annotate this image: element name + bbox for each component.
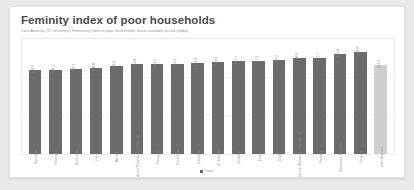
bar-value-label: 108.0	[92, 63, 96, 71]
bar[interactable]: 125.8	[334, 54, 347, 154]
bar-column[interactable]: 110.4	[106, 43, 126, 154]
bar-column[interactable]: 113.5	[167, 43, 187, 154]
chart-legend: Index	[10, 169, 404, 173]
x-axis-tick-label: Dominican Republic	[339, 142, 343, 172]
x-axis-tick-label: Brazil	[258, 153, 262, 162]
x-axis-tick: Guatemala	[65, 156, 85, 178]
bar-value-label: 107.3	[72, 64, 76, 72]
x-axis-tick-label: Costa Rica	[176, 149, 180, 166]
bar[interactable]: 113.2	[151, 64, 164, 154]
bar[interactable]: 119.2	[273, 60, 286, 155]
bar[interactable]: 108.0	[90, 68, 103, 154]
x-axis-tick: Honduras	[24, 156, 44, 178]
x-axis-tick: Uruguay	[349, 156, 369, 178]
x-axis-tick-label: Ecuador	[237, 151, 241, 164]
x-axis-tick: Ecuador	[227, 156, 247, 178]
x-axis-tick: Panama	[309, 156, 329, 178]
bar-value-label: 113.5	[173, 59, 177, 67]
page-title: Feminity index of poor households	[21, 14, 215, 26]
bar[interactable]: 128.4	[354, 52, 367, 154]
bar-column[interactable]: 121.7	[310, 43, 330, 154]
x-axis-tick: Colombia	[187, 156, 207, 178]
bar-column[interactable]: 108.0	[86, 43, 106, 154]
bar[interactable]: 121.7	[313, 58, 326, 154]
bar-column[interactable]: 116.4	[208, 43, 228, 154]
x-axis-tick-label: Paraguay	[156, 150, 160, 164]
bar[interactable]: 116.4	[212, 62, 225, 154]
x-axis-tick-label: Chile	[278, 153, 282, 161]
x-axis-tick: Venezuela (Bolivarian Republic of)	[288, 156, 308, 178]
bar-column[interactable]: 119.2	[269, 43, 289, 154]
bar-column[interactable]: 105.6	[25, 43, 45, 154]
chart-subtitle: Latin America (17 countries). Femininity…	[21, 29, 189, 33]
bar-value-label: 112.9	[377, 59, 381, 67]
bar-column[interactable]: 112.9	[371, 43, 391, 154]
bar-column[interactable]: 113.2	[147, 43, 167, 154]
bar-column[interactable]: 117.1	[228, 43, 248, 154]
x-axis-tick-label: Latin America	[380, 147, 384, 168]
x-axis-labels: HondurasNicaraguaGuatemalaPeruMexicoBoli…	[24, 156, 390, 178]
bar[interactable]: 110.4	[110, 66, 123, 154]
bar-column[interactable]: 114.3	[188, 43, 208, 154]
bar-value-label: 128.4	[356, 47, 360, 55]
bar-value-label: 117.1	[234, 56, 238, 64]
bar-value-label: 121.7	[316, 52, 320, 60]
bar-value-label: 119.2	[275, 54, 279, 62]
page-background: Feminity index of poor households Latin …	[0, 0, 414, 190]
bar-value-label: 116.4	[214, 57, 218, 65]
bar-column[interactable]: 125.8	[330, 43, 350, 154]
legend-swatch-icon	[200, 170, 203, 173]
x-axis-tick-label: Nicaragua	[54, 149, 58, 164]
x-axis-tick-label: Honduras	[34, 150, 38, 165]
x-axis-tick: Brazil	[248, 156, 268, 178]
bar-column[interactable]: 107.3	[66, 43, 86, 154]
x-axis-tick-label: Colombia	[197, 150, 201, 164]
x-axis-tick-label: Uruguay	[359, 151, 363, 164]
x-axis-tick-label: Guatemala	[75, 149, 79, 166]
bar-value-label: 125.8	[336, 49, 340, 57]
bar[interactable]: 112.9	[374, 65, 387, 155]
x-axis-tick: Bolivia (Plurinational State of)	[126, 156, 146, 178]
bar-value-label: 117.3	[255, 56, 259, 64]
bar[interactable]: 105.6	[29, 70, 42, 154]
bar-series: 105.6106.1107.3108.0110.4113.0113.2113.5…	[25, 43, 391, 154]
x-axis-tick: Peru	[85, 156, 105, 178]
chart-plot-area: 105.6106.1107.3108.0110.4113.0113.2113.5…	[21, 38, 395, 155]
x-axis-tick: Mexico	[105, 156, 125, 178]
bar[interactable]: 106.1	[49, 70, 62, 154]
x-axis-tick: Dominican Republic	[329, 156, 349, 178]
x-axis-tick: Paraguay	[146, 156, 166, 178]
bar-value-label: 114.3	[194, 58, 198, 66]
bar[interactable]: 107.3	[70, 69, 83, 154]
bar-value-label: 105.6	[31, 65, 35, 73]
bar-value-label: 106.1	[51, 65, 55, 73]
x-axis-tick-label: El Salvador	[217, 148, 221, 165]
bar[interactable]: 113.5	[171, 64, 184, 154]
x-axis-tick: El Salvador	[207, 156, 227, 178]
x-axis-tick-label: Mexico	[115, 152, 119, 163]
bar[interactable]: 114.3	[191, 63, 204, 154]
x-axis-tick: Chile	[268, 156, 288, 178]
bar-column[interactable]: 128.4	[350, 43, 370, 154]
x-axis-tick: Nicaragua	[44, 156, 64, 178]
x-axis-tick: Latin America	[370, 156, 390, 178]
bar-value-label: 113.2	[153, 59, 157, 67]
x-axis-tick-label: Peru	[95, 153, 99, 160]
chart-card: Feminity index of poor households Latin …	[9, 6, 405, 178]
bar[interactable]: 117.1	[232, 61, 245, 154]
bar[interactable]: 117.3	[252, 61, 265, 154]
legend-label: Index	[205, 169, 214, 173]
x-axis-tick: Costa Rica	[166, 156, 186, 178]
bar-value-label: 120.9	[295, 53, 299, 61]
bar-value-label: 110.4	[112, 61, 116, 69]
bar-column[interactable]: 106.1	[45, 43, 65, 154]
bar-column[interactable]: 117.3	[249, 43, 269, 154]
x-axis-tick-label: Panama	[319, 151, 323, 163]
bar-value-label: 113.0	[133, 59, 137, 67]
